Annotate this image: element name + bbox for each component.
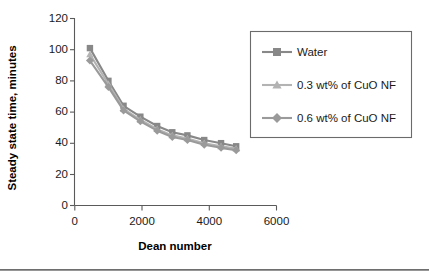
series-2 <box>86 51 240 152</box>
x-tick-label-2000: 2000 <box>129 215 155 227</box>
chart-figure: Steady state time, minutes 120 100 80 60… <box>0 0 429 279</box>
legend-marker-icon <box>273 48 281 56</box>
steady-state-time-line-chart: Steady state time, minutes 120 100 80 60… <box>0 0 429 279</box>
legend-label: 0.6 wt% of CuO NF <box>297 112 396 124</box>
y-tick-label-20: 20 <box>55 168 68 180</box>
y-tick-label-0: 0 <box>62 199 68 211</box>
data-point-marker <box>87 45 93 51</box>
page-divider-rule <box>0 269 429 271</box>
x-tick-label-6000: 6000 <box>264 215 290 227</box>
y-tick-label-80: 80 <box>55 74 68 86</box>
series-layer <box>86 45 240 154</box>
series-line <box>90 61 236 151</box>
x-tick-label-4000: 4000 <box>197 215 223 227</box>
y-tick-label-40: 40 <box>55 136 68 148</box>
x-axis-title: Dean number <box>138 240 212 252</box>
legend-label: 0.3 wt% of CuO NF <box>297 79 396 91</box>
legend-label: Water <box>297 46 327 58</box>
x-tick-label-0: 0 <box>72 215 78 227</box>
series-3 <box>86 57 240 155</box>
y-tick-label-100: 100 <box>49 43 68 55</box>
series-line <box>90 54 236 148</box>
y-axis-title: Steady state time, minutes <box>6 45 18 190</box>
y-tick-label-120: 120 <box>49 12 68 24</box>
y-tick-label-60: 60 <box>55 105 68 117</box>
